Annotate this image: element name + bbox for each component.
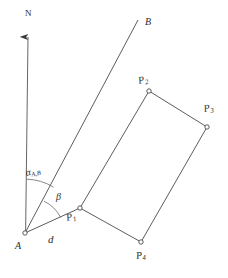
geometry-figure: N B A d αA,B β P1 P2 P3 P4 — [0, 0, 228, 278]
distance-d-label: d — [48, 234, 54, 245]
vertex-marker-p1 — [78, 206, 82, 210]
beta-angle-arc — [44, 201, 61, 217]
point-a-label: A — [15, 241, 21, 251]
p4-subscript: 4 — [142, 254, 147, 262]
line-p1-p2 — [80, 91, 149, 208]
vertex-marker-p4 — [139, 240, 143, 244]
vertex-marker-a — [23, 231, 27, 235]
north-label: N — [25, 9, 32, 18]
line-p2-p3 — [149, 91, 207, 127]
north-arrow-line — [26, 37, 28, 233]
point-p4-label: P4 — [135, 250, 146, 263]
line-p4-p1 — [80, 208, 141, 242]
figure-canvas — [0, 0, 228, 278]
line-p3-p4 — [141, 127, 207, 242]
point-p3-label: P3 — [203, 103, 215, 116]
vertex-marker-p2 — [147, 89, 151, 93]
beta-angle-label: β — [56, 192, 61, 202]
alpha-subscript: A,B — [31, 169, 42, 178]
point-b-label: B — [145, 17, 151, 27]
p3-subscript: 3 — [210, 106, 215, 114]
line-ab — [25, 20, 138, 233]
vertex-marker-p3 — [205, 125, 209, 129]
